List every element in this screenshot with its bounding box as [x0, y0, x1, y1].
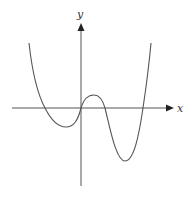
function-graph: x y	[0, 0, 190, 199]
y-axis-label: y	[76, 8, 84, 21]
x-axis-label: x	[177, 102, 184, 115]
x-axis-arrow-icon	[166, 105, 174, 112]
y-axis-arrow-icon	[78, 23, 85, 31]
function-curve	[29, 43, 151, 161]
